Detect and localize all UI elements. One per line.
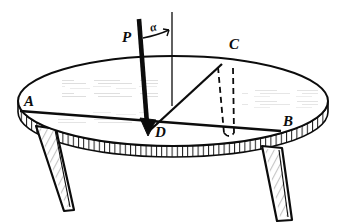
- table-force-diagram: [0, 0, 347, 224]
- point-label-a: A: [24, 94, 34, 109]
- force-label-p: P: [122, 30, 131, 45]
- elliptical-tabletop: [18, 56, 328, 146]
- point-label-b: B: [283, 114, 293, 129]
- table-leg-right: [262, 146, 292, 221]
- point-label-d: D: [155, 125, 166, 140]
- point-label-c: C: [229, 37, 239, 52]
- figure-canvas: A B C D P α: [0, 0, 347, 224]
